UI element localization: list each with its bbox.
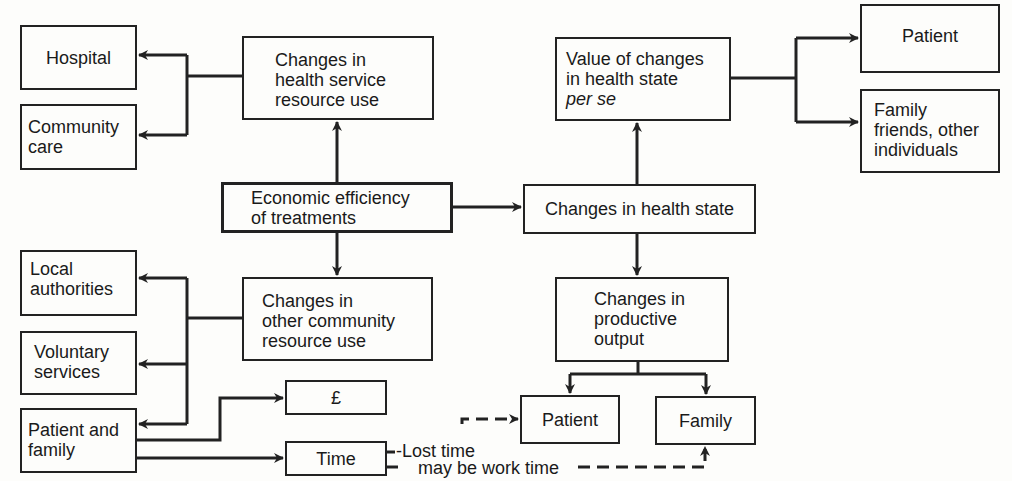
value-of-changes-box: Value of changes in health state per se <box>555 37 731 121</box>
health-service-resource-label: Changes in health service resource use <box>275 50 432 110</box>
voluntary-services-box: Voluntary services <box>20 331 137 395</box>
productive-output-label: Changes in productive output <box>594 289 727 349</box>
family-output-label: Family <box>679 411 732 431</box>
hospital-box: Hospital <box>20 25 137 90</box>
other-community-resource-box: Changes in other community resource use <box>242 277 433 361</box>
patient-output-box: Patient <box>520 395 620 444</box>
value-of-changes-label: Value of changes in health state <box>566 49 729 89</box>
economic-efficiency-box: Economic efficiency of treatments <box>221 182 453 233</box>
family-output-box: Family <box>655 396 756 445</box>
patient-and-family-label: Patient and family <box>28 420 135 460</box>
per-se-label: per se <box>566 89 729 109</box>
health-state-label: Changes in health state <box>545 199 734 219</box>
money-label: £ <box>331 388 341 408</box>
family-friends-box: Family friends, other individuals <box>860 89 1000 173</box>
local-authorities-label: Local authorities <box>30 259 135 299</box>
patient-value-box: Patient <box>860 4 1000 73</box>
health-state-box: Changes in health state <box>523 184 756 234</box>
hospital-label: Hospital <box>46 48 111 68</box>
family-friends-label: Family friends, other individuals <box>874 100 998 160</box>
patient-and-family-box: Patient and family <box>20 408 137 473</box>
time-box: Time <box>285 441 387 476</box>
economic-efficiency-label: Economic efficiency of treatments <box>251 188 450 228</box>
work-time-annotation: may be work time <box>418 458 559 478</box>
local-authorities-box: Local authorities <box>20 250 137 316</box>
time-label: Time <box>316 449 355 469</box>
patient-value-label: Patient <box>902 26 958 46</box>
patient-output-label: Patient <box>542 410 598 430</box>
money-box: £ <box>285 380 387 415</box>
health-service-resource-box: Changes in health service resource use <box>242 36 434 120</box>
community-care-box: Community care <box>20 104 137 170</box>
productive-output-box: Changes in productive output <box>555 277 729 362</box>
other-community-resource-label: Changes in other community resource use <box>262 291 431 351</box>
community-care-label: Community care <box>28 117 119 157</box>
voluntary-services-label: Voluntary services <box>34 342 135 382</box>
